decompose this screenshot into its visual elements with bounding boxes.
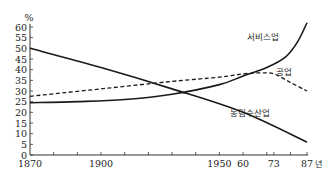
x-axis-unit: 년 — [315, 159, 322, 169]
y-axis-unit: % — [24, 12, 33, 23]
label-industry: 공업 — [276, 67, 292, 77]
industry-line — [30, 73, 307, 97]
x-tick-label: 1900 — [89, 158, 113, 169]
x-tick-label: 1870 — [18, 158, 42, 169]
label-agriculture: 농림수산업 — [230, 108, 270, 118]
y-tick-label: 25 — [15, 96, 27, 107]
y-tick-label: 60 — [15, 22, 27, 33]
x-tick-label: 60 — [237, 158, 249, 169]
y-tick-label: 40 — [15, 64, 27, 75]
y-tick-label: 55 — [15, 32, 27, 43]
label-service: 서비스업 — [247, 32, 279, 42]
y-tick-label: 5 — [21, 139, 27, 150]
x-tick-label: 87 — [301, 158, 313, 169]
y-tick-label: 30 — [15, 86, 27, 97]
y-tick-label: 10 — [15, 128, 27, 139]
y-tick-label: 20 — [15, 107, 27, 118]
y-tick-label: 35 — [15, 75, 27, 86]
line-chart: 051015202530354045505560%187019001950607… — [0, 0, 335, 181]
y-tick-label: 50 — [15, 43, 27, 54]
y-tick-label: 15 — [15, 118, 27, 129]
y-tick-label: 45 — [15, 54, 27, 65]
x-tick-label: 73 — [268, 158, 280, 169]
x-tick-label: 1950 — [207, 158, 231, 169]
